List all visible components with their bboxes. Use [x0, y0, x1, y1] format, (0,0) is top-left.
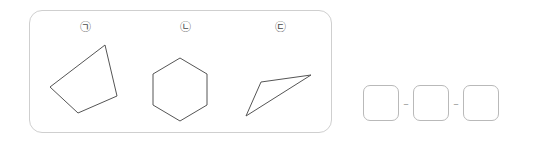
- figure-label-1: ㉠: [35, 22, 135, 34]
- figure-label-3: ㉢: [230, 22, 330, 34]
- triangle-outline: [246, 75, 311, 116]
- hexagon-shape: [135, 37, 235, 129]
- quadrilateral-shape: [35, 37, 135, 129]
- quadrilateral-outline: [50, 45, 117, 113]
- triangle-shape: [230, 37, 330, 129]
- figure-cell-2: ㉡: [135, 11, 235, 132]
- figure-label-2: ㉡: [135, 22, 235, 34]
- answer-box-1[interactable]: [363, 85, 399, 121]
- answer-box-2[interactable]: [413, 85, 449, 121]
- answer-separator-1: –: [399, 98, 413, 109]
- shape-comparison-panel: ㉠ ㉡ ㉢: [29, 10, 332, 133]
- worksheet-canvas: ㉠ ㉡ ㉢: [0, 0, 552, 146]
- answer-boxes: – –: [363, 85, 499, 121]
- hexagon-outline: [153, 58, 207, 121]
- figure-cell-1: ㉠: [35, 11, 135, 132]
- figure-cell-3: ㉢: [230, 11, 330, 132]
- answer-box-3[interactable]: [463, 85, 499, 121]
- answer-separator-2: –: [449, 98, 463, 109]
